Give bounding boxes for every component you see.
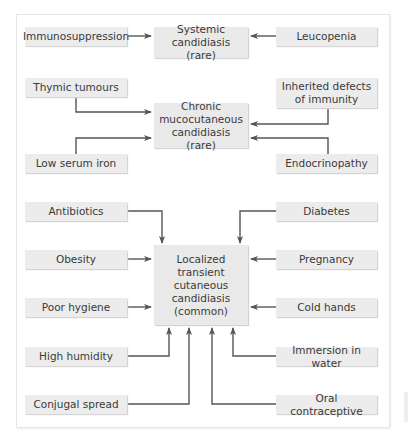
- cause-inherited-defects: Inherited defects of immunity: [276, 78, 377, 108]
- cause-immunosuppression: Immunosuppression: [25, 27, 127, 46]
- cause-label: Endocrinopathy: [285, 157, 368, 170]
- cause-oral-contraceptive: Oral contraceptive: [276, 395, 377, 414]
- cause-conjugal-spread: Conjugal spread: [25, 395, 127, 414]
- cause-label: Obesity: [56, 253, 96, 266]
- arrow-high-humidity: [127, 328, 169, 356]
- page-edge-fragment: [404, 392, 408, 422]
- cause-label: Pregnancy: [299, 253, 354, 266]
- arrow-endocrinopathy: [251, 138, 328, 154]
- cause-label: Poor hygiene: [42, 301, 111, 314]
- cause-label: High humidity: [39, 350, 113, 363]
- cause-immersion-in-water: Immersion in water: [276, 347, 377, 366]
- cause-obesity: Obesity: [25, 250, 127, 269]
- arrow-oral-contraceptive: [212, 328, 276, 404]
- cause-antibiotics: Antibiotics: [25, 202, 127, 221]
- arrow-conjugal-spread: [127, 328, 189, 404]
- cause-label: Inherited defects of immunity: [282, 80, 371, 106]
- cause-label: Immunosuppression: [23, 30, 129, 43]
- cause-leucopenia: Leucopenia: [276, 27, 377, 46]
- cause-thymic-tumours: Thymic tumours: [25, 78, 127, 97]
- arrow-antibiotics: [127, 211, 162, 243]
- chronic-candidiasis-box: Chronic mucocutaneous candidiasis (rare): [154, 103, 248, 148]
- cause-endocrinopathy: Endocrinopathy: [276, 154, 377, 173]
- cause-pregnancy: Pregnancy: [276, 250, 377, 269]
- arrow-immersion-in-water: [233, 328, 276, 356]
- cause-label: Thymic tumours: [33, 81, 118, 94]
- localized-candidiasis-label: Localized transient cutaneous candidiasi…: [172, 253, 230, 318]
- cause-diabetes: Diabetes: [276, 202, 377, 221]
- cause-cold-hands: Cold hands: [276, 298, 377, 317]
- systemic-candidiasis-label: Systemic candidiasis (rare): [156, 23, 246, 62]
- cause-high-humidity: High humidity: [25, 347, 127, 366]
- cause-label: Oral contraceptive: [278, 392, 375, 418]
- cause-label: Low serum iron: [36, 157, 117, 170]
- cause-label: Cold hands: [297, 301, 356, 314]
- cause-label: Conjugal spread: [33, 398, 118, 411]
- arrow-inherited-defects: [251, 107, 328, 124]
- arrow-diabetes: [240, 211, 276, 243]
- cause-low-serum-iron: Low serum iron: [25, 154, 127, 173]
- arrow-thymic-tumours: [76, 96, 151, 112]
- cause-label: Antibiotics: [48, 205, 103, 218]
- chronic-candidiasis-label: Chronic mucocutaneous candidiasis (rare): [156, 100, 246, 152]
- cause-poor-hygiene: Poor hygiene: [25, 298, 127, 317]
- arrow-low-serum-iron: [76, 138, 151, 154]
- cause-label: Immersion in water: [278, 344, 375, 370]
- localized-candidiasis-box: Localized transient cutaneous candidiasi…: [154, 245, 248, 325]
- cause-label: Diabetes: [303, 205, 350, 218]
- systemic-candidiasis-box: Systemic candidiasis (rare): [154, 27, 248, 58]
- cause-label: Leucopenia: [296, 30, 356, 43]
